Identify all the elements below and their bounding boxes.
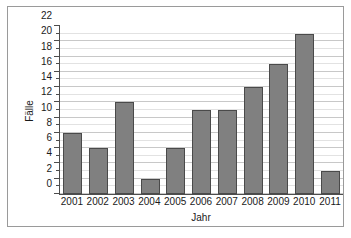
y-axis-tick-label: 0: [46, 179, 52, 189]
bar-slot: [214, 26, 240, 194]
x-axis-tick-label: 2001: [59, 197, 85, 207]
bar[interactable]: [321, 171, 340, 194]
x-axis-tick-label: 2008: [240, 197, 266, 207]
figure-frame: Fälle 0246810121416182022 20012002200320…: [7, 6, 344, 227]
y-axis-title: Fälle: [24, 26, 36, 195]
y-axis-tick-label: 4: [46, 148, 52, 158]
x-axis-tick-label: 2006: [188, 197, 214, 207]
x-axis-tick-label: 2011: [317, 197, 343, 207]
bar-slot: [163, 26, 189, 194]
y-axis-tick-label: 16: [41, 57, 52, 67]
y-axis-tick-label: 18: [41, 42, 52, 52]
y-axis-tick-label: 2: [46, 164, 52, 174]
bar-slot: [266, 26, 292, 194]
bar[interactable]: [63, 133, 82, 194]
bar[interactable]: [192, 110, 211, 194]
bar[interactable]: [295, 34, 314, 194]
bar[interactable]: [166, 148, 185, 194]
bar-series: [60, 26, 343, 194]
bar-slot: [60, 26, 86, 194]
x-axis-title-label: Jahr: [191, 212, 210, 223]
chart-figure: Fälle 0246810121416182022 20012002200320…: [0, 0, 351, 238]
y-axis-tick-label: 12: [41, 87, 52, 97]
x-axis-tick-label: 2010: [291, 197, 317, 207]
y-axis-tick-label: 22: [41, 11, 52, 21]
x-axis-tick-label: 2002: [85, 197, 111, 207]
bar-slot: [189, 26, 215, 194]
x-axis-tick-label: 2007: [214, 197, 240, 207]
bar[interactable]: [244, 87, 263, 194]
y-axis-tick-label: 20: [41, 26, 52, 36]
bar-slot: [317, 26, 343, 194]
y-axis-tick-label: 10: [41, 103, 52, 113]
bar-slot: [292, 26, 318, 194]
x-axis-tick-label: 2005: [162, 197, 188, 207]
x-axis-tick-label: 2009: [266, 197, 292, 207]
x-axis-tick-labels: 2001200220032004200520062007200820092010…: [59, 197, 343, 207]
x-axis-tick-label: 2003: [111, 197, 137, 207]
y-axis-tick-label: 6: [46, 133, 52, 143]
bar-slot: [86, 26, 112, 194]
bar[interactable]: [218, 110, 237, 194]
bar-slot: [137, 26, 163, 194]
y-axis-title-label: Fälle: [25, 100, 35, 122]
bar[interactable]: [115, 102, 134, 194]
plot-area: 0246810121416182022: [59, 26, 343, 195]
bar-slot: [111, 26, 137, 194]
x-axis-tick-label: 2004: [136, 197, 162, 207]
bar-slot: [240, 26, 266, 194]
x-axis-title: Jahr: [59, 213, 343, 223]
bar[interactable]: [141, 179, 160, 194]
bar[interactable]: [269, 64, 288, 194]
y-axis-tick-label: 8: [46, 118, 52, 128]
bar[interactable]: [89, 148, 108, 194]
y-axis-tick-label: 14: [41, 72, 52, 82]
